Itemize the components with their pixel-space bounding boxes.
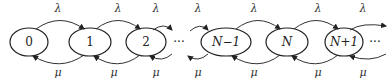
- lambda-label: λ: [194, 2, 202, 15]
- state-1-label: 1: [86, 35, 94, 49]
- mu-label: μ: [250, 66, 257, 79]
- mu-label: μ: [110, 66, 117, 79]
- state-n-minus-1-label: N−1: [211, 35, 240, 49]
- state-0-label: 0: [25, 35, 33, 49]
- ellipsis-middle: ···: [173, 35, 184, 49]
- lambda-label: λ: [250, 2, 258, 15]
- state-n-label: N: [281, 35, 293, 49]
- mu-label: μ: [359, 66, 366, 79]
- mu-label: μ: [54, 66, 61, 79]
- lambda-label: λ: [152, 2, 160, 15]
- lambda-label: λ: [359, 2, 367, 15]
- lambda-label: λ: [314, 2, 322, 15]
- birth-death-chain-diagram: 0 1 2 N−1 N N+1 ··· ··· λ λ λ λ λ λ λ μ …: [0, 0, 390, 83]
- state-n-plus-1-label: N+1: [329, 35, 358, 49]
- lambda-label: λ: [114, 2, 122, 15]
- arrival-arrows: [36, 21, 386, 32]
- mu-label: μ: [152, 66, 159, 79]
- state-2-label: 2: [142, 35, 150, 49]
- mu-label: μ: [194, 66, 201, 79]
- mu-label: μ: [314, 66, 321, 79]
- lambda-label: λ: [54, 2, 62, 15]
- ellipsis-end: ···: [369, 35, 380, 49]
